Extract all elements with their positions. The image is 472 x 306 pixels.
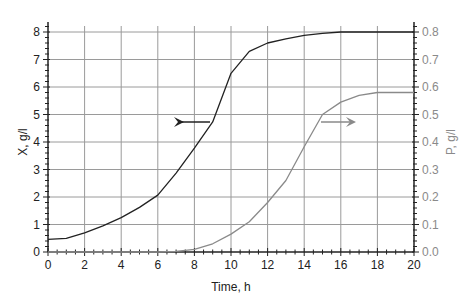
y-right-tick-label: 0.3: [422, 163, 439, 177]
x-axis-title: Time, h: [211, 280, 251, 294]
y-left-tick-label: 8: [33, 25, 40, 39]
x-tick-label: 6: [154, 258, 161, 272]
y-right-tick-label: 0.4: [422, 135, 439, 149]
y-right-tick-label: 0.0: [422, 245, 439, 259]
y-left-tick-label: 4: [33, 135, 40, 149]
y-right-tick-label: 0.2: [422, 190, 439, 204]
x-tick-label: 16: [334, 258, 348, 272]
x-tick-label: 4: [118, 258, 125, 272]
y-left-tick-label: 3: [33, 163, 40, 177]
y-right-tick-label: 0.5: [422, 108, 439, 122]
y-left-tick-label: 1: [33, 218, 40, 232]
y-right-tick-label: 0.8: [422, 25, 439, 39]
x-tick-label: 0: [45, 258, 52, 272]
x-tick-label: 8: [191, 258, 198, 272]
x-tick-label: 18: [371, 258, 385, 272]
y-left-tick-label: 6: [33, 80, 40, 94]
x-tick-label: 10: [224, 258, 238, 272]
y-left-tick-label: 0: [33, 245, 40, 259]
y-right-tick-label: 0.1: [422, 218, 439, 232]
y-left-tick-label: 5: [33, 108, 40, 122]
grid: [48, 26, 414, 252]
y-left-axis-title: X, g/l: [16, 128, 30, 155]
y-left-tick-label: 2: [33, 190, 40, 204]
y-right-axis-title: P, g/l: [444, 129, 458, 155]
chart: 024681012141618200123456780.00.10.20.30.…: [0, 0, 472, 306]
x-tick-label: 14: [298, 258, 312, 272]
y-right-tick-label: 0.6: [422, 80, 439, 94]
x-tick-label: 12: [261, 258, 275, 272]
y-left-tick-label: 7: [33, 53, 40, 67]
x-tick-label: 20: [407, 258, 421, 272]
y-right-tick-label: 0.7: [422, 53, 439, 67]
x-tick-label: 2: [81, 258, 88, 272]
